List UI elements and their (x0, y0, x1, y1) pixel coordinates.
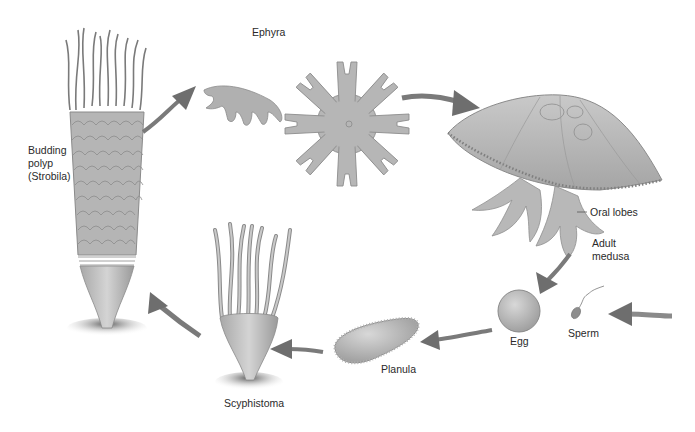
label-scyphistoma: Scyphistoma (224, 397, 284, 410)
label-sperm: Sperm (568, 327, 599, 340)
egg-organism (498, 290, 540, 332)
arrow-egg-to-planula (420, 330, 492, 350)
arrow-ephyra-to-medusa (402, 90, 480, 116)
label-egg: Egg (510, 335, 529, 348)
arrow-to-sperm (608, 302, 672, 326)
scyphistoma-tentacles (215, 224, 290, 318)
ephyra-side-view (204, 86, 282, 125)
arrow-strobila-to-ephyra (143, 86, 196, 132)
planula-organism (335, 319, 418, 363)
sperm-organism (570, 286, 604, 320)
strobila-tentacles (66, 28, 146, 110)
ephyra-top-view (285, 62, 409, 186)
label-ephyra: Ephyra (252, 26, 285, 39)
label-planula: Planula (381, 363, 416, 376)
adult-medusa-organism (448, 95, 662, 258)
strobila-stalk (80, 266, 134, 328)
label-strobila: Budding polyp (Strobila) (28, 144, 71, 183)
strobila-rings (78, 257, 136, 265)
strobila-organism (66, 28, 147, 338)
arrow-scyphistoma-to-strobila (148, 292, 200, 336)
arrow-planula-to-scyphistoma (270, 339, 323, 359)
life-cycle-diagram: Budding polyp (Strobila) Ephyra Adult me… (0, 0, 695, 432)
arrow-medusa-to-egg (536, 254, 570, 294)
label-adult-medusa: Adult medusa (592, 237, 629, 263)
strobila-segments-body (70, 112, 144, 255)
label-oral-lobes: Oral lobes (590, 206, 638, 219)
scyphistoma-organism (215, 224, 290, 392)
scyphistoma-body (220, 314, 278, 381)
